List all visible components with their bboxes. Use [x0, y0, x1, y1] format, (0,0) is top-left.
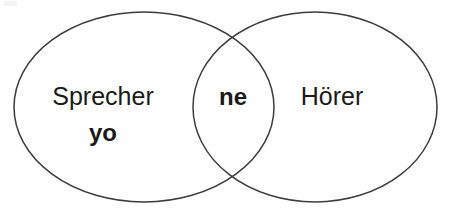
left-set-sublabel: yo — [89, 119, 117, 146]
venn-diagram-canvas: Sprecher yo ne Hörer — [0, 0, 452, 217]
left-set-label: Sprecher — [52, 82, 153, 110]
intersection-label: ne — [219, 83, 247, 110]
right-set-label: Hörer — [301, 82, 364, 110]
venn-diagram: Sprecher yo ne Hörer — [0, 0, 452, 217]
